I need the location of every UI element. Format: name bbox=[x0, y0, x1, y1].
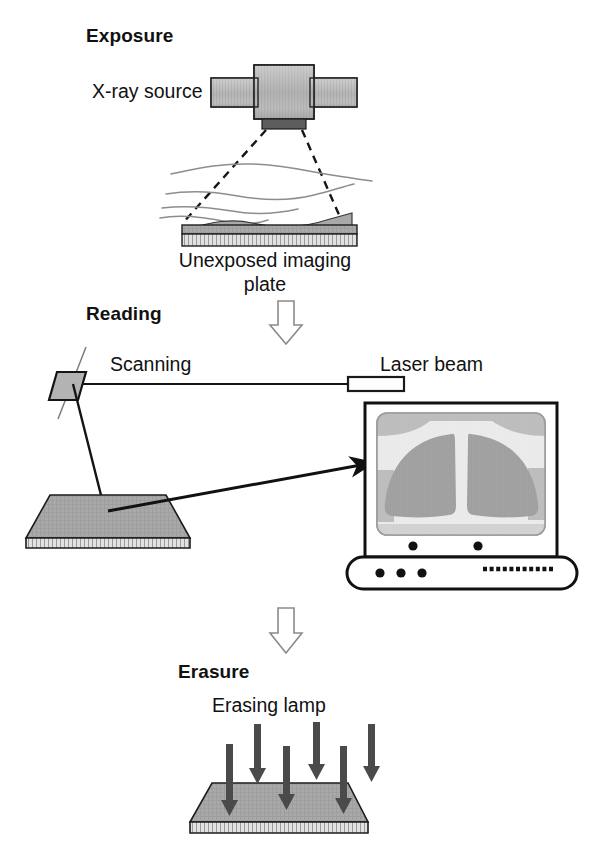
reading-imaging-plate bbox=[26, 495, 190, 548]
reading-plate-edge bbox=[26, 538, 190, 548]
monitor-bezel-button-1[interactable] bbox=[408, 541, 417, 550]
connector-arrow-reading-to-erasure bbox=[270, 608, 302, 653]
erasing-lamp-arrow-6 bbox=[363, 724, 380, 782]
body-contour-1 bbox=[171, 164, 372, 181]
monitor-front-button-1[interactable] bbox=[375, 568, 384, 577]
monitor-bezel-button-2[interactable] bbox=[473, 541, 482, 550]
erasure-plate-edge bbox=[190, 822, 368, 833]
erasure-section: Erasure Erasing lamp bbox=[178, 661, 380, 833]
xray-tube-housing-sheen bbox=[254, 65, 314, 119]
deflected-beam bbox=[73, 384, 108, 511]
erasure-heading: Erasure bbox=[178, 661, 249, 682]
laser-source-box bbox=[348, 377, 404, 391]
monitor-front-button-2[interactable] bbox=[396, 568, 405, 577]
xray-beam bbox=[182, 130, 343, 224]
xray-tube-window bbox=[262, 119, 306, 129]
laser-beam-label: Laser beam bbox=[380, 353, 483, 375]
monitor-front-button-3[interactable] bbox=[417, 568, 426, 577]
x-ray-source-label: X-ray source bbox=[92, 80, 203, 102]
erasing-lamp-arrow-4 bbox=[308, 722, 325, 780]
erasing-lamp-arrow-2 bbox=[249, 724, 266, 784]
imaging-plate-label-line1: Unexposed imaging bbox=[179, 249, 351, 271]
erasing-lamp-label: Erasing lamp bbox=[212, 694, 326, 716]
imaging-plate-label-line2: plate bbox=[244, 273, 286, 295]
exposure-section: Exposure X-ray source bbox=[86, 25, 372, 295]
scanning-mirror bbox=[49, 372, 86, 400]
scanning-label: Scanning bbox=[110, 353, 191, 375]
xray-tube-right-arm-sheen bbox=[310, 78, 357, 107]
unexposed-imaging-plate bbox=[182, 225, 357, 246]
exposure-heading: Exposure bbox=[86, 25, 173, 46]
emitted-light-arrow bbox=[108, 463, 372, 511]
imaging-plate-top bbox=[182, 225, 357, 234]
monitor bbox=[347, 403, 577, 589]
connector-arrow-exposure-to-reading bbox=[270, 301, 302, 344]
diagram-canvas: Exposure X-ray source bbox=[0, 0, 610, 852]
chest-radiograph-image bbox=[377, 413, 545, 535]
reading-section: Reading Scanning Laser beam bbox=[26, 303, 577, 589]
imaging-plate-edge bbox=[182, 234, 357, 246]
beam-edge-right bbox=[302, 130, 343, 224]
reading-heading: Reading bbox=[86, 303, 162, 324]
imaging-plate-cycle-diagram: Exposure X-ray source bbox=[0, 0, 610, 852]
body-contour-3 bbox=[162, 207, 298, 214]
xray-tube bbox=[211, 65, 357, 129]
xray-tube-left-arm-sheen bbox=[211, 78, 258, 107]
